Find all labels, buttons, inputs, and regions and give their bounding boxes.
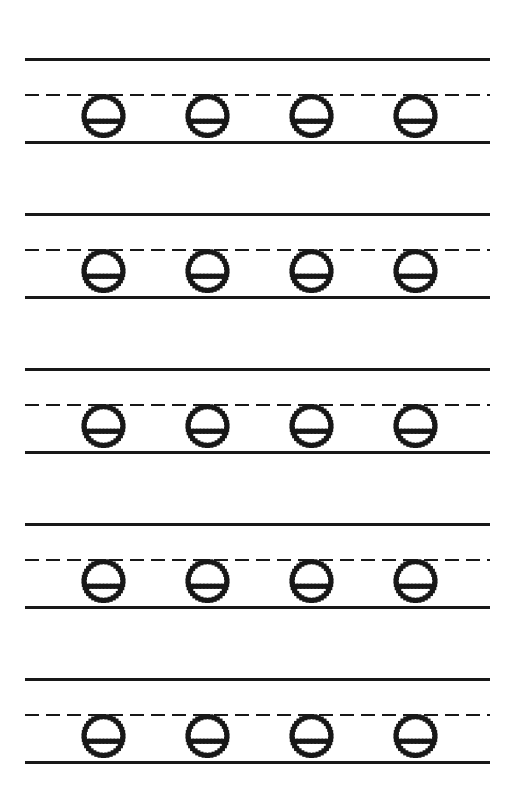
letter-trace-guide[interactable] xyxy=(394,249,435,290)
ascender-line xyxy=(25,523,490,526)
letter-trace-guide[interactable] xyxy=(394,714,435,755)
letter-trace-guide[interactable] xyxy=(82,559,123,600)
letter-trace-guide[interactable] xyxy=(82,249,123,290)
baseline xyxy=(25,296,490,299)
letter-trace-guide[interactable] xyxy=(290,714,331,755)
letter-trace-guide[interactable] xyxy=(394,559,435,600)
baseline xyxy=(25,451,490,454)
letter-trace-guide[interactable] xyxy=(394,94,435,135)
letter-trace-guide[interactable] xyxy=(186,94,227,135)
letter-trace-guide[interactable] xyxy=(290,94,331,135)
ascender-line xyxy=(25,58,490,61)
letter-trace-guide[interactable] xyxy=(82,404,123,445)
baseline xyxy=(25,606,490,609)
letter-trace-guide[interactable] xyxy=(82,94,123,135)
ascender-line xyxy=(25,368,490,371)
baseline xyxy=(25,761,490,764)
letter-trace-guide[interactable] xyxy=(290,249,331,290)
tracing-worksheet-page xyxy=(0,0,515,803)
letter-trace-guide[interactable] xyxy=(394,404,435,445)
letter-trace-guide[interactable] xyxy=(186,249,227,290)
letter-trace-guide[interactable] xyxy=(186,714,227,755)
letter-trace-guide[interactable] xyxy=(290,559,331,600)
letter-trace-guide[interactable] xyxy=(82,714,123,755)
ascender-line xyxy=(25,678,490,681)
letter-trace-guide[interactable] xyxy=(186,404,227,445)
letter-trace-guide[interactable] xyxy=(290,404,331,445)
ascender-line xyxy=(25,213,490,216)
baseline xyxy=(25,141,490,144)
letter-trace-guide[interactable] xyxy=(186,559,227,600)
